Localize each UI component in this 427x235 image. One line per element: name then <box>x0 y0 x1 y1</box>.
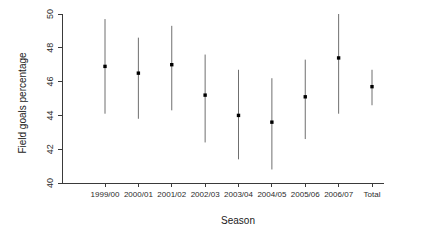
y-tick-label: 46 <box>45 77 55 87</box>
x-tick-label: 2005/06 <box>291 190 320 199</box>
y-tick-label: 50 <box>45 9 55 19</box>
x-tick-label: Total <box>364 190 381 199</box>
data-point <box>137 71 140 74</box>
data-series <box>103 14 373 169</box>
data-point <box>203 93 206 96</box>
data-point <box>103 65 106 68</box>
x-tick-label: 2004/05 <box>257 190 286 199</box>
y-tick-label: 44 <box>45 110 55 120</box>
data-point <box>270 120 273 123</box>
y-tick-label: 42 <box>45 144 55 154</box>
x-axis: 1999/002000/012001/022002/032003/042004/… <box>62 183 384 199</box>
data-point <box>170 63 173 66</box>
data-point <box>237 114 240 117</box>
chart-container: 404244464850 1999/002000/012001/022002/0… <box>0 0 427 235</box>
y-tick-label: 40 <box>45 178 55 188</box>
x-tick-label: 1999/00 <box>91 190 120 199</box>
y-tick-label: 48 <box>45 43 55 53</box>
x-tick-label: 2002/03 <box>191 190 220 199</box>
x-tick-label: 2001/02 <box>157 190 186 199</box>
data-point <box>304 95 307 98</box>
data-point <box>337 56 340 59</box>
x-axis-title: Season <box>221 215 255 226</box>
x-tick-label: 2003/04 <box>224 190 253 199</box>
y-axis: 404244464850 <box>45 9 62 188</box>
x-tick-label: 2006/07 <box>324 190 353 199</box>
chart-canvas: 404244464850 1999/002000/012001/022002/0… <box>0 0 427 235</box>
data-point <box>370 85 373 88</box>
x-tick-label: 2000/01 <box>124 190 153 199</box>
y-axis-title: Field goals percentage <box>17 52 28 154</box>
